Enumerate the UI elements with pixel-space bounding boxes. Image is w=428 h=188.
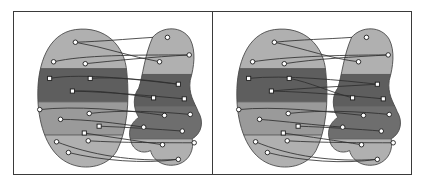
node-L11[interactable] bbox=[82, 131, 86, 135]
node-L14[interactable] bbox=[66, 150, 71, 154]
node-L10[interactable] bbox=[296, 124, 300, 128]
node-R11[interactable] bbox=[160, 142, 165, 146]
node-R5[interactable] bbox=[152, 96, 156, 100]
node-L4[interactable] bbox=[48, 76, 52, 80]
node-R1[interactable] bbox=[165, 35, 170, 39]
node-L6[interactable] bbox=[269, 89, 273, 93]
node-L11[interactable] bbox=[281, 131, 285, 135]
node-R4[interactable] bbox=[176, 82, 180, 86]
node-R2[interactable] bbox=[386, 53, 391, 57]
node-R7[interactable] bbox=[162, 113, 167, 117]
node-R6[interactable] bbox=[381, 97, 385, 101]
node-R13[interactable] bbox=[375, 157, 380, 161]
node-R8[interactable] bbox=[387, 112, 392, 116]
node-L5[interactable] bbox=[88, 76, 92, 80]
node-L2[interactable] bbox=[51, 60, 56, 64]
node-R10[interactable] bbox=[379, 129, 384, 133]
node-L2[interactable] bbox=[250, 60, 255, 64]
node-L12[interactable] bbox=[253, 140, 258, 144]
figure-root bbox=[0, 0, 428, 188]
node-L3[interactable] bbox=[83, 61, 88, 65]
node-R12[interactable] bbox=[391, 141, 396, 145]
node-R9[interactable] bbox=[141, 125, 146, 129]
node-L9[interactable] bbox=[286, 111, 291, 115]
node-L10[interactable] bbox=[97, 124, 101, 128]
node-R9[interactable] bbox=[340, 125, 345, 129]
node-R4[interactable] bbox=[375, 82, 379, 86]
node-R3[interactable] bbox=[356, 60, 361, 64]
node-L8[interactable] bbox=[58, 117, 63, 121]
node-R3[interactable] bbox=[157, 60, 162, 64]
node-R10[interactable] bbox=[180, 129, 185, 133]
node-L7[interactable] bbox=[37, 107, 42, 111]
node-L14[interactable] bbox=[265, 150, 270, 154]
node-R6[interactable] bbox=[182, 97, 186, 101]
node-R1[interactable] bbox=[364, 35, 369, 39]
node-L8[interactable] bbox=[257, 117, 262, 121]
node-L4[interactable] bbox=[247, 76, 251, 80]
node-L3[interactable] bbox=[282, 61, 287, 65]
node-L6[interactable] bbox=[70, 89, 74, 93]
panel-right bbox=[212, 11, 412, 175]
panel-left-canvas bbox=[14, 12, 212, 174]
node-R12[interactable] bbox=[192, 141, 197, 145]
node-R7[interactable] bbox=[361, 113, 366, 117]
node-R13[interactable] bbox=[176, 157, 181, 161]
node-L13[interactable] bbox=[285, 139, 290, 143]
node-R8[interactable] bbox=[188, 112, 193, 116]
node-L7[interactable] bbox=[236, 107, 241, 111]
node-L12[interactable] bbox=[54, 140, 59, 144]
node-L5[interactable] bbox=[287, 76, 291, 80]
node-L1[interactable] bbox=[272, 40, 277, 44]
panel-left bbox=[13, 11, 213, 175]
node-R5[interactable] bbox=[351, 96, 355, 100]
node-L13[interactable] bbox=[86, 139, 91, 143]
panel-right-canvas bbox=[213, 12, 411, 174]
node-L9[interactable] bbox=[87, 111, 92, 115]
node-R11[interactable] bbox=[359, 142, 364, 146]
node-R2[interactable] bbox=[187, 53, 192, 57]
node-L1[interactable] bbox=[73, 40, 78, 44]
